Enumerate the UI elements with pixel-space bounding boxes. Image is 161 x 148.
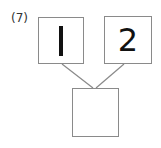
top-right-number-box: 2 bbox=[104, 16, 152, 64]
digit-two: 2 bbox=[118, 21, 138, 59]
answer-box[interactable] bbox=[72, 88, 119, 137]
top-left-number-box bbox=[38, 17, 84, 64]
digit-one bbox=[59, 26, 63, 56]
